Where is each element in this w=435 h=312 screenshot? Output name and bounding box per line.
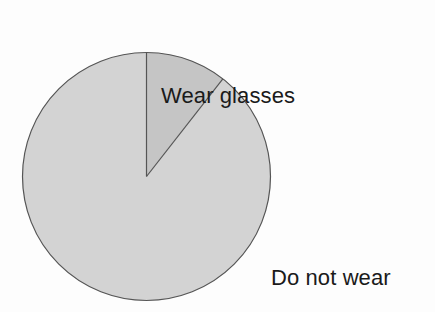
pie-chart-figure: Wear glasses Do not wear glasses	[0, 0, 435, 312]
pie-label-do-not-wear-glasses: Do not wear glasses	[271, 208, 391, 312]
pie-label-do-not-wear-glasses-line1: Do not wear	[271, 264, 391, 292]
pie-label-wear-glasses: Wear glasses	[161, 26, 295, 166]
pie-label-wear-glasses-text: Wear glasses	[161, 82, 295, 110]
